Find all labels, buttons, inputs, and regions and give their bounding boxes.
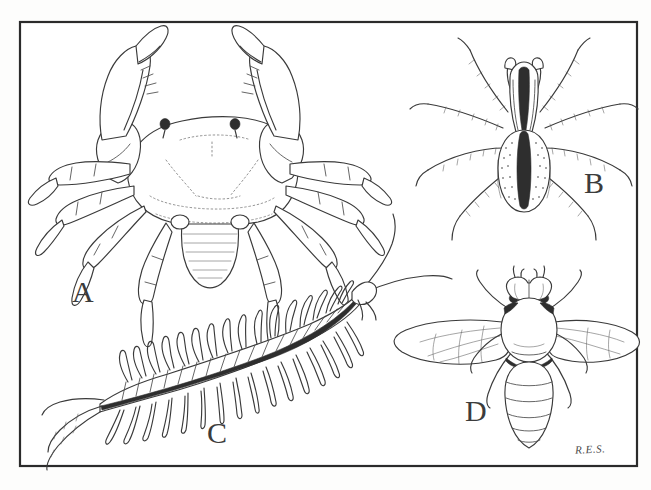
figure-plate: A B C D R.E.S. (0, 0, 651, 490)
plate-artwork (0, 0, 651, 490)
panel-label-a: A (72, 277, 94, 307)
panel-label-b: B (584, 168, 605, 198)
panel-label-d: D (465, 396, 487, 426)
panel-label-c: C (207, 418, 228, 448)
artist-signature: R.E.S. (575, 442, 606, 456)
